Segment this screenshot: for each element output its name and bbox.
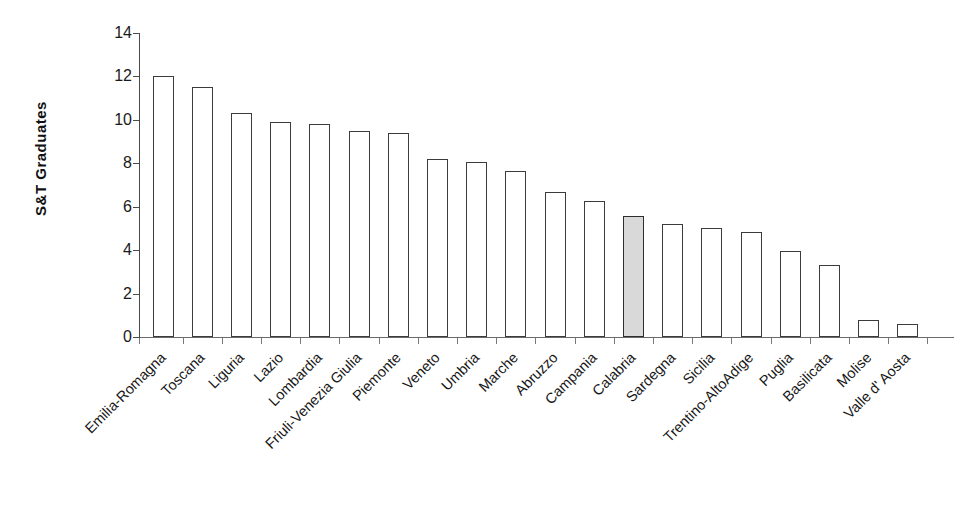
x-tick-mark bbox=[810, 338, 811, 344]
x-label-slot: Valle d' Aosta bbox=[608, 347, 908, 363]
x-tick-mark bbox=[535, 338, 536, 344]
x-tick-mark bbox=[927, 338, 928, 344]
bar-campania bbox=[584, 201, 605, 337]
y-axis-tick-labels: 02468101214 bbox=[100, 0, 132, 520]
y-tick-mark bbox=[133, 250, 140, 251]
y-tick-label: 10 bbox=[102, 111, 132, 129]
x-tick-mark bbox=[575, 338, 576, 344]
x-tick-mark bbox=[849, 338, 850, 344]
bar-molise bbox=[858, 320, 879, 337]
bar-veneto bbox=[427, 159, 448, 337]
bar-sicilia bbox=[701, 228, 722, 337]
y-tick-label: 6 bbox=[102, 198, 132, 216]
x-tick-mark bbox=[731, 338, 732, 344]
x-tick-mark bbox=[300, 338, 301, 344]
x-tick-mark bbox=[457, 338, 458, 344]
bar-toscana bbox=[192, 87, 213, 337]
bar-piemonte bbox=[388, 133, 409, 337]
bar-sardegna bbox=[662, 224, 683, 337]
bar-puglia bbox=[780, 251, 801, 337]
y-tick-label: 12 bbox=[102, 67, 132, 85]
x-tick-mark bbox=[222, 338, 223, 344]
x-tick-mark bbox=[339, 338, 340, 344]
x-tick-mark bbox=[418, 338, 419, 344]
y-tick-label: 14 bbox=[102, 24, 132, 42]
x-tick-mark bbox=[888, 338, 889, 344]
bar-liguria bbox=[231, 113, 252, 337]
y-tick-label: 0 bbox=[102, 328, 132, 346]
x-tick-mark bbox=[692, 338, 693, 344]
bar-umbria bbox=[466, 162, 487, 337]
x-tick-mark bbox=[653, 338, 654, 344]
y-axis-title: S&T Graduates bbox=[32, 59, 49, 259]
y-tick-mark bbox=[133, 120, 140, 121]
x-tick-mark bbox=[496, 338, 497, 344]
y-axis-line bbox=[139, 33, 140, 338]
x-tick-mark bbox=[771, 338, 772, 344]
y-tick-label: 8 bbox=[102, 154, 132, 172]
bar-abruzzo bbox=[545, 192, 566, 337]
bar-friuli-venezia-giulia bbox=[349, 131, 370, 337]
y-tick-label: 2 bbox=[102, 285, 132, 303]
y-tick-mark bbox=[133, 33, 140, 34]
y-tick-label: 4 bbox=[102, 241, 132, 259]
bar-marche bbox=[505, 171, 526, 337]
x-tick-mark bbox=[139, 338, 140, 344]
x-tick-mark bbox=[379, 338, 380, 344]
x-tick-mark bbox=[614, 338, 615, 344]
bar-lombardia bbox=[309, 124, 330, 337]
bar-emilia-romagna bbox=[153, 76, 174, 337]
bar-valle-d-aosta bbox=[897, 324, 918, 337]
bar-chart-figure: S&T Graduates 02468101214 Emilia-Romagna… bbox=[0, 0, 958, 520]
bar-basilicata bbox=[819, 265, 840, 337]
bar-calabria bbox=[623, 216, 644, 337]
bar-lazio bbox=[270, 122, 291, 337]
x-tick-label: Valle d' Aosta bbox=[841, 349, 913, 421]
y-tick-mark bbox=[133, 163, 140, 164]
x-tick-mark bbox=[261, 338, 262, 344]
y-tick-mark bbox=[133, 294, 140, 295]
y-tick-mark bbox=[133, 76, 140, 77]
y-tick-mark bbox=[133, 207, 140, 208]
x-tick-mark bbox=[183, 338, 184, 344]
bar-trentino-altoadige bbox=[741, 232, 762, 337]
